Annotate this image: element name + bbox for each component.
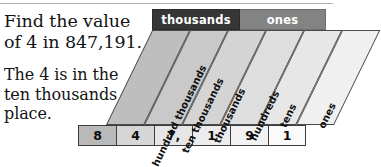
period-header-ones: ones	[240, 9, 326, 30]
digit-value: 1	[283, 128, 292, 143]
place-value-chart: thousands ones hundred thousands ten tho…	[60, 8, 333, 147]
digit-cell: 8	[78, 125, 116, 146]
digit-value: 8	[93, 128, 102, 143]
column-label: ones	[316, 101, 338, 130]
top-divider-rule	[0, 3, 333, 4]
digit-cell: 4	[116, 125, 154, 146]
column-band: hundred thousands ten thousands thousand…	[60, 30, 333, 125]
period-header-thousands: thousands	[152, 9, 240, 30]
period-header-ones-label: ones	[267, 13, 299, 27]
digit-value: 4	[131, 128, 140, 143]
period-header-thousands-label: thousands	[161, 13, 230, 27]
answer-line-3: place.	[4, 104, 52, 123]
